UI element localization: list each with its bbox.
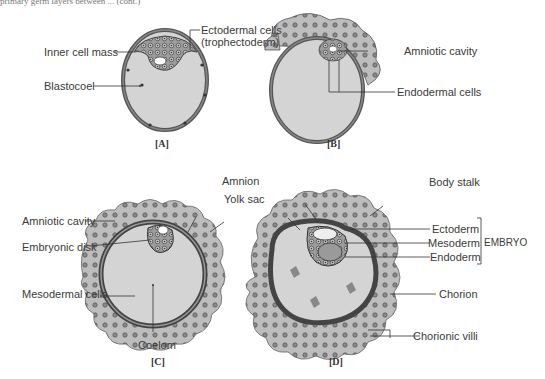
label-yolk-sac: Yolk sac xyxy=(224,193,265,205)
caption-a: [A] xyxy=(155,138,169,149)
label-amniotic-cavity-b: Amniotic cavity xyxy=(404,45,477,57)
label-endoderm: Endoderm xyxy=(430,251,481,263)
label-trophectoderm: (trophectoderm) xyxy=(201,36,279,48)
caption-d: [D] xyxy=(329,356,343,367)
label-chorion: Chorion xyxy=(439,288,478,300)
label-inner-cell-mass: Inner cell mass xyxy=(44,46,118,58)
label-blastocoel: Blastocoel xyxy=(44,80,95,92)
label-chorionic-villi: Chorionic villi xyxy=(413,330,478,342)
label-mesoderm: Mesoderm xyxy=(428,237,480,249)
label-amnion: Amnion xyxy=(222,175,259,187)
caption-b: [B] xyxy=(327,138,340,149)
label-embryonic-disk: Embryonic disk xyxy=(22,241,97,253)
label-mesodermal-cells: Mesodermal cells xyxy=(22,288,108,300)
label-embryo: EMBRYO xyxy=(484,237,527,249)
figure-c-embryonic-disk xyxy=(81,200,225,351)
label-body-stalk: Body stalk xyxy=(429,176,480,188)
label-coelom: Coelom xyxy=(138,339,176,351)
label-amniotic-cavity-c: Amniotic cavity xyxy=(22,215,95,227)
label-ectodermal-cells: Ectodermal cells xyxy=(201,24,282,36)
label-ectoderm: Ectoderm xyxy=(432,223,479,235)
label-endodermal-cells: Endodermal cells xyxy=(397,86,481,98)
caption-c: [C] xyxy=(151,356,165,367)
figure-a-blastocyst xyxy=(94,30,207,130)
figure-b-implantation xyxy=(265,13,395,142)
